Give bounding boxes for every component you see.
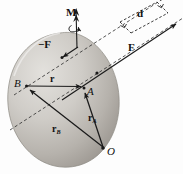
vector-rb-label: rB (52, 124, 61, 135)
vector-rb-subscript: B (56, 128, 60, 135)
vector-r (27, 86, 81, 87)
vector-ra-label: rA (88, 113, 97, 124)
moment-label: M (66, 7, 76, 18)
reaction-force-label: −F (38, 39, 51, 50)
force-application-point-a (95, 71, 98, 74)
moment-arm-label: d (137, 8, 143, 19)
vector-ra-subscript: A (92, 117, 96, 124)
point-a-label: A (87, 86, 94, 97)
point-b-marker (25, 85, 28, 88)
point-a-marker (83, 87, 86, 90)
point-b-label: B (14, 78, 21, 89)
point-o-label: O (107, 146, 115, 157)
force-label: F (128, 42, 135, 53)
mechanics-figure: M F −F d A B O r rA rB (0, 0, 183, 174)
point-o-marker (101, 146, 105, 150)
moment-arm-construction (120, 2, 168, 33)
vector-r-label: r (50, 74, 54, 84)
